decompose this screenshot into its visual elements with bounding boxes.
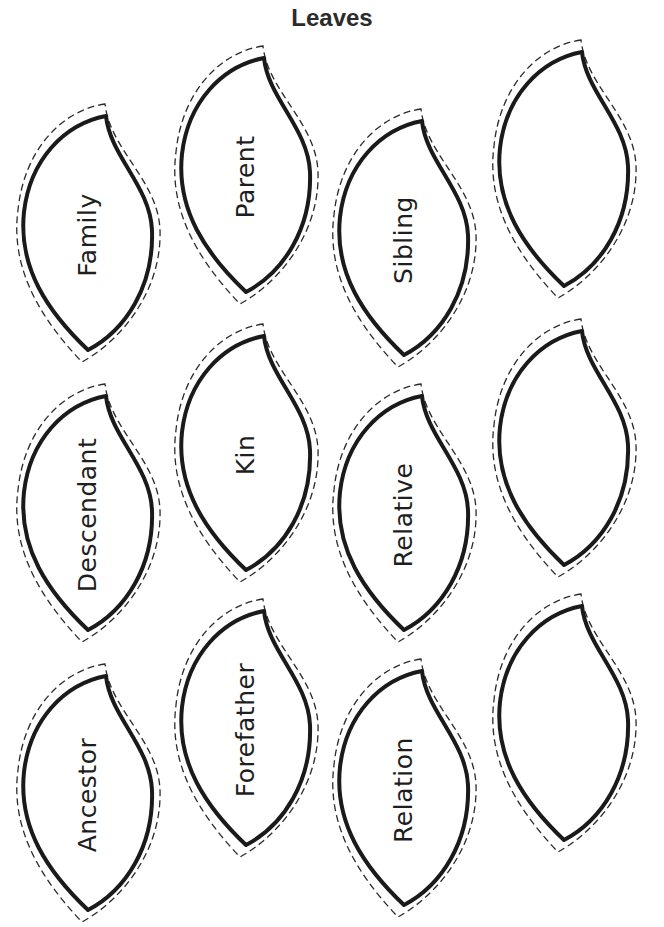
leaf-label: Forefather [231, 663, 260, 797]
leaf-descendant: Descendant [2, 380, 172, 650]
leaf-blank-3 [478, 590, 648, 860]
page-title: Leaves [0, 4, 664, 32]
leaf-label: Parent [231, 135, 260, 218]
leaf-sibling: Sibling [318, 105, 488, 375]
leaf-label: Descendant [73, 438, 102, 592]
leaf-outline-icon [478, 590, 648, 860]
leaf-label: Ancestor [73, 738, 102, 852]
leaf-family: Family [2, 100, 172, 370]
leaf-blank-1 [478, 36, 648, 306]
leaf-label: Relative [389, 463, 418, 568]
leaf-blank-2 [478, 315, 648, 585]
leaf-label: Kin [231, 435, 260, 476]
leaf-label: Sibling [389, 196, 418, 284]
leaf-relation: Relation [318, 655, 488, 925]
leaf-forefather: Forefather [160, 595, 330, 865]
leaf-label: Relation [389, 737, 418, 843]
leaf-ancestor: Ancestor [2, 660, 172, 927]
leaf-outline-icon [478, 36, 648, 306]
leaf-label: Family [73, 193, 102, 276]
leaf-relative: Relative [318, 380, 488, 650]
leaf-outline-icon [478, 315, 648, 585]
leaf-kin: Kin [160, 320, 330, 590]
leaf-parent: Parent [160, 42, 330, 312]
